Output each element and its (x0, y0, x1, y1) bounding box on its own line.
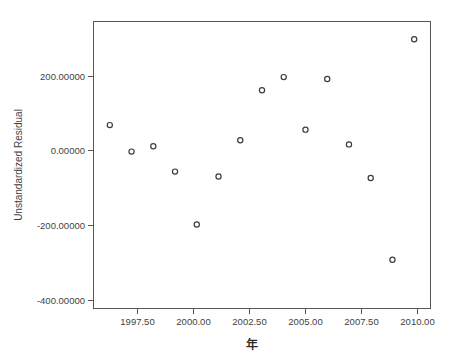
x-tick-label: 1997.50 (120, 316, 154, 327)
y-tick-label: -400.00000 (37, 295, 85, 306)
y-tick-label: 200.00000 (40, 71, 85, 82)
x-tick-label: 2002.50 (232, 316, 266, 327)
plot-frame (94, 22, 431, 309)
y-tick-label: -200.00000 (37, 220, 85, 231)
scatter-plot-figure: 200.00000 0.00000 -200.00000 -400.00000 … (0, 0, 449, 361)
y-axis-title: Unstandardized Residual (13, 109, 24, 221)
x-axis-ticks (138, 309, 418, 315)
y-axis-ticks (88, 77, 94, 301)
x-axis-title: 年 (246, 337, 258, 352)
x-tick-label: 2007.50 (344, 316, 378, 327)
x-tick-label: 2005.00 (288, 316, 322, 327)
plot-canvas: 200.00000 0.00000 -200.00000 -400.00000 … (0, 0, 449, 361)
x-tick-label: 2000.00 (176, 316, 210, 327)
y-tick-label: 0.00000 (51, 145, 85, 156)
x-tick-label: 2010.00 (400, 316, 434, 327)
